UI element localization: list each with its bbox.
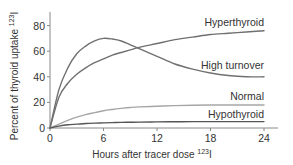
x-axis-title-text: Hours after tracer dose	[92, 149, 195, 160]
series-label-hypothyroid: Hypothyroid	[208, 108, 264, 120]
y-ticks: 020406080	[33, 20, 50, 134]
x-tick-label: 24	[258, 132, 270, 144]
thyroid-uptake-chart: 020406080 06121824 Hyperthyroid High tur…	[0, 0, 293, 165]
y-axis-title-tail: I	[9, 12, 20, 15]
x-axis-title: Hours after tracer dose 123I	[92, 148, 212, 160]
y-axis-title: Percent of thyroid uptake 123I	[8, 12, 20, 140]
x-tick-label: 12	[151, 132, 163, 144]
y-tick-label: 40	[33, 71, 45, 83]
series-label-high-turnover: High turnover	[201, 59, 265, 71]
x-ticks: 06121824	[47, 128, 270, 144]
x-tick-label: 0	[47, 132, 53, 144]
y-tick-label: 0	[39, 122, 45, 134]
x-tick-label: 6	[101, 132, 107, 144]
x-axis-title-superscript: 123	[197, 148, 209, 155]
series-label-normal: Normal	[230, 90, 264, 102]
series-label-hyperthyroid: Hyperthyroid	[204, 16, 264, 28]
y-tick-label: 20	[33, 96, 45, 108]
curve-hypothyroid	[50, 122, 264, 128]
y-tick-label: 60	[33, 45, 45, 57]
y-axis-title-text: Percent of thyroid uptake	[9, 29, 20, 141]
x-axis-title-tail: I	[209, 149, 212, 160]
y-tick-label: 80	[33, 20, 45, 32]
y-axis-title-superscript: 123	[8, 14, 15, 26]
x-tick-label: 18	[205, 132, 217, 144]
